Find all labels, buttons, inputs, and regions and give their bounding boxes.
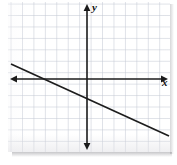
data-line-series-1 [11,64,169,136]
y-axis [84,4,91,150]
graph-svg [8,2,170,152]
graph-screenshot: y x [0,0,177,165]
plot-panel [8,2,170,152]
y-axis-label: y [92,2,97,13]
panel-drop-shadow-right [170,4,174,154]
x-axis-arrow-left [10,76,17,83]
y-axis-arrow-down [84,143,91,150]
x-axis-label: x [162,77,168,88]
y-axis-arrow-up [84,4,91,11]
panel-drop-shadow [12,152,172,157]
x-axis [10,76,168,83]
